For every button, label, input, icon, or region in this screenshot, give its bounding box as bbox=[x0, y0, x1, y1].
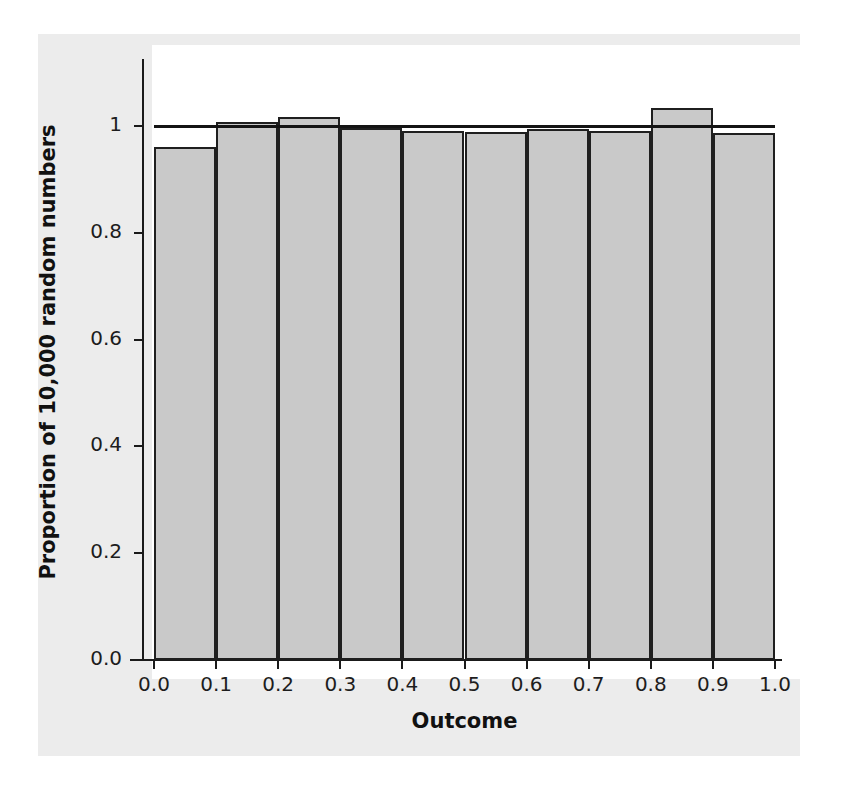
histogram-figure: 0.00.20.40.60.81 0.00.10.20.30.40.50.60.… bbox=[0, 0, 855, 786]
y-tick-label: 0.2 bbox=[64, 539, 122, 563]
x-tick-label: 0.4 bbox=[372, 672, 432, 696]
y-tick-mark bbox=[134, 339, 143, 341]
x-tick-mark bbox=[153, 659, 155, 669]
y-axis-line bbox=[142, 59, 144, 661]
chart-page: 0.00.20.40.60.81 0.00.10.20.30.40.50.60.… bbox=[0, 0, 855, 786]
x-tick-mark bbox=[526, 659, 528, 669]
x-tick-mark bbox=[215, 659, 217, 669]
expected-uniform-reference-line bbox=[154, 125, 775, 128]
x-tick-mark bbox=[277, 659, 279, 669]
x-tick-label: 0.7 bbox=[559, 672, 619, 696]
x-tick-mark bbox=[712, 659, 714, 669]
histogram-bar bbox=[589, 131, 651, 660]
y-tick-label: 1 bbox=[64, 112, 122, 136]
y-tick-mark bbox=[134, 552, 143, 554]
x-tick-mark bbox=[339, 659, 341, 669]
histogram-bar bbox=[340, 128, 402, 660]
y-tick-label: 0.6 bbox=[64, 326, 122, 350]
x-tick-label: 0.5 bbox=[435, 672, 495, 696]
plot-area bbox=[154, 60, 775, 660]
x-tick-label: 0.9 bbox=[683, 672, 743, 696]
x-tick-label: 1.0 bbox=[745, 672, 805, 696]
y-tick-mark bbox=[134, 659, 143, 661]
histogram-bar bbox=[278, 117, 340, 660]
y-tick-mark bbox=[134, 125, 143, 127]
x-tick-mark bbox=[588, 659, 590, 669]
x-tick-mark bbox=[650, 659, 652, 669]
histogram-bar bbox=[154, 147, 216, 660]
histogram-bar bbox=[527, 129, 589, 660]
histogram-bar bbox=[216, 122, 278, 660]
y-tick-mark bbox=[134, 445, 143, 447]
histogram-bar bbox=[465, 132, 527, 660]
x-tick-label: 0.6 bbox=[497, 672, 557, 696]
x-tick-label: 0.8 bbox=[621, 672, 681, 696]
y-tick-mark bbox=[134, 232, 143, 234]
y-tick-label: 0.0 bbox=[64, 646, 122, 670]
x-tick-mark bbox=[774, 659, 776, 669]
x-tick-label: 0.2 bbox=[248, 672, 308, 696]
x-axis-title: Outcome bbox=[154, 709, 775, 733]
y-axis-title: Proportion of 10,000 random numbers bbox=[36, 92, 60, 612]
histogram-bar bbox=[651, 108, 713, 660]
x-tick-mark bbox=[401, 659, 403, 669]
y-tick-label: 0.8 bbox=[64, 219, 122, 243]
x-tick-mark bbox=[464, 659, 466, 669]
histogram-bar bbox=[402, 131, 464, 660]
histogram-bar bbox=[713, 133, 775, 660]
x-tick-label: 0.0 bbox=[124, 672, 184, 696]
y-tick-label: 0.4 bbox=[64, 432, 122, 456]
x-tick-label: 0.1 bbox=[186, 672, 246, 696]
x-tick-label: 0.3 bbox=[310, 672, 370, 696]
